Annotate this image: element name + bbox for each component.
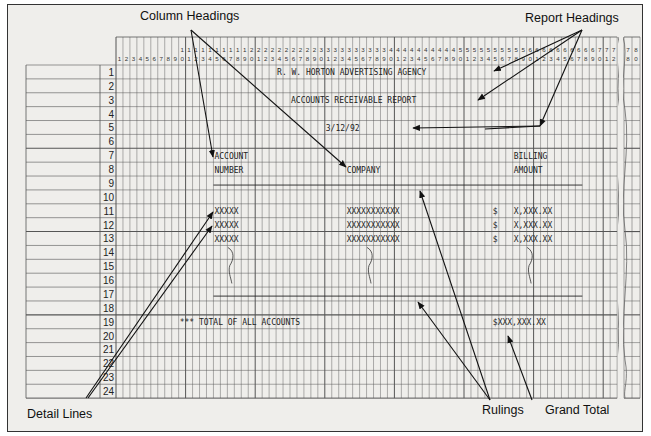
svg-text:4: 4: [389, 46, 393, 53]
svg-text:5: 5: [487, 46, 491, 53]
grand-total: $XXX,XXX.XX: [493, 318, 546, 327]
svg-text:7: 7: [299, 55, 303, 62]
total-label: *** TOTAL OF ALL ACCOUNTS: [180, 318, 301, 327]
svg-text:7: 7: [577, 55, 581, 62]
svg-text:4: 4: [431, 46, 435, 53]
svg-text:5: 5: [480, 46, 484, 53]
svg-text:6: 6: [563, 46, 567, 53]
svg-text:8: 8: [626, 55, 630, 62]
svg-text:3: 3: [132, 55, 136, 62]
svg-text:3: 3: [361, 46, 365, 53]
svg-text:5: 5: [501, 46, 505, 53]
svg-text:3: 3: [340, 55, 344, 62]
svg-text:7: 7: [368, 55, 372, 62]
row-number: 15: [103, 261, 115, 272]
svg-text:0: 0: [598, 55, 602, 62]
svg-text:9: 9: [313, 55, 317, 62]
row-number: 20: [103, 331, 115, 342]
svg-text:2: 2: [264, 55, 268, 62]
svg-text:4: 4: [445, 46, 449, 53]
svg-text:2: 2: [313, 46, 317, 53]
row-number: 10: [103, 192, 115, 203]
svg-text:1: 1: [466, 55, 470, 62]
squiggle-amount: [527, 247, 532, 283]
row-number: 9: [108, 178, 114, 189]
svg-text:4: 4: [278, 55, 282, 62]
callout-detail-lines: Detail Lines: [27, 407, 92, 421]
arrow-to-grand-total: [508, 336, 532, 400]
svg-text:9: 9: [382, 55, 386, 62]
row-number: 3: [108, 95, 114, 106]
svg-text:9: 9: [591, 55, 595, 62]
report-layout: R. W. HORTON ADVERTISING AGENCYACCOUNTS …: [180, 68, 583, 327]
svg-text:2: 2: [612, 55, 616, 62]
report-heading-date: 3/12/92: [326, 124, 360, 133]
detail-dollar-sign: $: [493, 235, 498, 244]
svg-text:5: 5: [466, 46, 470, 53]
svg-text:0: 0: [250, 55, 254, 62]
svg-text:0: 0: [180, 55, 184, 62]
column-heading-billing: BILLING: [514, 152, 548, 161]
callout-report-headings: Report Headings: [525, 11, 619, 25]
svg-text:1: 1: [222, 46, 226, 53]
svg-text:5: 5: [424, 55, 428, 62]
detail-account: XXXXX: [214, 221, 238, 230]
svg-text:6: 6: [361, 55, 365, 62]
svg-text:5: 5: [146, 55, 150, 62]
svg-text:5: 5: [494, 46, 498, 53]
report-heading-title: ACCOUNTS RECEIVABLE REPORT: [291, 96, 416, 105]
row-number: 11: [104, 206, 115, 217]
row-number: 12: [103, 220, 115, 231]
svg-text:8: 8: [445, 55, 449, 62]
svg-text:2: 2: [306, 46, 310, 53]
svg-text:7: 7: [598, 46, 602, 53]
svg-text:5: 5: [508, 46, 512, 53]
svg-text:1: 1: [257, 55, 261, 62]
svg-text:1: 1: [605, 55, 609, 62]
svg-text:7: 7: [160, 55, 164, 62]
svg-text:6: 6: [153, 55, 157, 62]
svg-text:8: 8: [166, 55, 170, 62]
callout-column-headings: Column Headings: [140, 9, 239, 23]
squiggle-account: [228, 247, 233, 283]
svg-text:2: 2: [299, 46, 303, 53]
svg-text:8: 8: [375, 55, 379, 62]
row-number: 7: [108, 150, 114, 161]
svg-text:3: 3: [375, 46, 379, 53]
svg-text:3: 3: [382, 46, 386, 53]
callout-rulings: Rulings: [482, 403, 524, 417]
detail-amount: X,XXX.XX: [514, 207, 553, 216]
svg-text:5: 5: [521, 46, 525, 53]
svg-text:2: 2: [271, 46, 275, 53]
svg-text:8: 8: [306, 55, 310, 62]
arrow-to-ruling-top: [420, 191, 490, 400]
svg-text:2: 2: [264, 46, 268, 53]
svg-text:5: 5: [563, 55, 567, 62]
svg-text:3: 3: [327, 46, 331, 53]
detail-account: XXXXX: [214, 235, 238, 244]
svg-text:0: 0: [634, 55, 638, 62]
svg-text:1: 1: [118, 55, 122, 62]
svg-text:4: 4: [556, 55, 560, 62]
column-heading-account: ACCOUNT: [214, 152, 248, 161]
svg-text:5: 5: [285, 55, 289, 62]
svg-text:2: 2: [257, 46, 261, 53]
row-number: 2: [108, 81, 114, 92]
svg-text:1: 1: [201, 46, 205, 53]
row-number: 5: [108, 122, 114, 133]
svg-text:7: 7: [605, 46, 609, 53]
svg-text:0: 0: [389, 55, 393, 62]
grid: 1234567891011121314151617181920212223241…: [26, 37, 640, 398]
svg-text:6: 6: [528, 46, 532, 53]
svg-text:3: 3: [271, 55, 275, 62]
detail-dollar-sign: $: [493, 207, 498, 216]
svg-text:4: 4: [208, 55, 212, 62]
svg-text:0: 0: [528, 55, 532, 62]
svg-text:4: 4: [417, 55, 421, 62]
svg-text:2: 2: [285, 46, 289, 53]
svg-text:6: 6: [591, 46, 595, 53]
svg-text:8: 8: [584, 55, 588, 62]
svg-text:2: 2: [292, 46, 296, 53]
svg-text:2: 2: [278, 46, 282, 53]
svg-text:1: 1: [187, 55, 191, 62]
